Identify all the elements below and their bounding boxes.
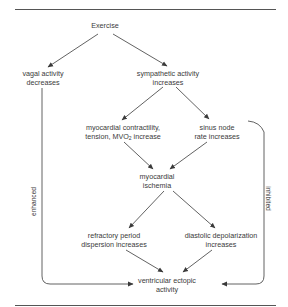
arrow-vagal-ventricular	[42, 88, 133, 284]
arrow-sinus-ischemia	[170, 142, 207, 169]
node-sympathetic-activity: sympathetic activity increases	[137, 70, 199, 87]
arrow-refractory-ventricular	[126, 250, 163, 272]
node-sinus-node-rate: sinus node rate increases	[194, 124, 239, 141]
node-text: rate increases	[194, 133, 239, 142]
node-myocardial-contractility: myocardial contractility, tension, MVO2 …	[85, 124, 161, 142]
arrow-exercise-vagal	[48, 34, 98, 67]
edge-label-enhanced: enhanced	[30, 187, 37, 216]
node-refractory-period: refractory period dispersion increases	[81, 232, 147, 249]
edge-label-inhibited: inhibited	[265, 186, 272, 211]
arrow-exercise-sympathetic	[113, 34, 167, 66]
node-vagal-activity: vagal activity decreases	[22, 70, 63, 87]
arrow-ischemia-diastolic	[173, 191, 215, 228]
node-ventricular-ectopic-activity: ventricular ectopic activity	[138, 277, 196, 294]
connector-arrows	[0, 0, 288, 307]
node-exercise: Exercise	[91, 22, 119, 31]
node-text: activity	[138, 286, 196, 295]
node-diastolic-depolarization: diastolic depolarization increases	[185, 232, 258, 249]
node-text: decreases	[22, 79, 63, 88]
node-text: ischemia	[140, 182, 175, 191]
flowchart-diagram: Exercise vagal activity decreases sympat…	[0, 0, 288, 307]
node-text: dispersion increases	[81, 241, 147, 250]
node-text: increases	[137, 79, 199, 88]
node-myocardial-ischemia: myocardial ischemia	[140, 173, 175, 190]
node-text: increases	[185, 241, 258, 250]
node-text: Exercise	[91, 22, 119, 31]
arrow-sinus-ventricular	[222, 121, 264, 284]
arrow-ischemia-refractory	[129, 191, 164, 228]
arrow-sympathetic-contractility	[122, 87, 163, 120]
arrow-contractility-ischemia	[124, 142, 153, 169]
arrow-sympathetic-sinus	[176, 87, 209, 119]
arrow-diastolic-ventricular	[183, 250, 212, 272]
node-text: tension, MVO2 increase	[85, 133, 161, 143]
